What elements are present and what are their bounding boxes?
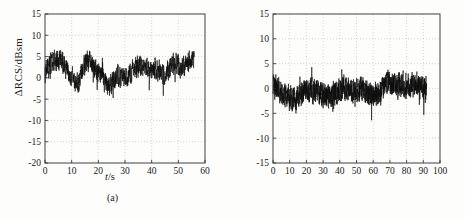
y-tick-label: 5 — [36, 52, 41, 62]
x-tick-label: 30 — [120, 166, 130, 176]
panel-a-plot-area: 0102030405060-20-15-10-5051015 — [0, 0, 232, 220]
x-tick-label: 0 — [271, 166, 276, 176]
y-tick-label: 10 — [260, 34, 270, 44]
y-tick-label: 0 — [36, 73, 41, 83]
y-tick-label: -5 — [33, 95, 41, 105]
x-tick-label: 100 — [433, 166, 448, 176]
y-tick-label: -20 — [28, 158, 41, 168]
y-tick-label: -5 — [261, 109, 269, 119]
x-tick-label: 10 — [285, 166, 295, 176]
x-tick-label: 50 — [352, 166, 362, 176]
x-tick-label: 50 — [174, 166, 184, 176]
panel-a: ΔRCS/dBsm t/s (a) 0102030405060-20-15-10… — [0, 0, 232, 220]
panel-b: ΔRCS/dBsm t/s (b) 0102030405060708090100… — [232, 0, 465, 220]
y-tick-label: 15 — [260, 9, 270, 19]
x-tick-label: 40 — [147, 166, 157, 176]
x-tick-label: 30 — [318, 166, 328, 176]
x-tick-label: 60 — [368, 166, 378, 176]
x-tick-label: 20 — [302, 166, 312, 176]
y-tick-label: -10 — [256, 134, 269, 144]
y-tick-label: -15 — [256, 158, 269, 168]
y-tick-label: 0 — [264, 84, 269, 94]
panel-b-plot-area: 0102030405060708090100-15-10-5051015 — [232, 0, 465, 220]
x-tick-label: 60 — [200, 166, 210, 176]
y-tick-label: 15 — [32, 9, 42, 19]
data-series-line — [45, 50, 194, 98]
x-tick-label: 20 — [94, 166, 104, 176]
y-tick-label: 5 — [264, 59, 269, 69]
figure-two-panel-rcs-timeseries: ΔRCS/dBsm t/s (a) 0102030405060-20-15-10… — [0, 0, 465, 220]
x-tick-label: 70 — [385, 166, 395, 176]
y-tick-label: -15 — [28, 137, 41, 147]
x-tick-label: 90 — [419, 166, 429, 176]
x-tick-label: 0 — [43, 166, 48, 176]
y-tick-label: 10 — [32, 31, 42, 41]
y-tick-label: -10 — [28, 116, 41, 126]
x-tick-label: 10 — [67, 166, 77, 176]
x-tick-label: 40 — [335, 166, 345, 176]
x-tick-label: 80 — [402, 166, 412, 176]
data-series-line — [273, 67, 427, 120]
